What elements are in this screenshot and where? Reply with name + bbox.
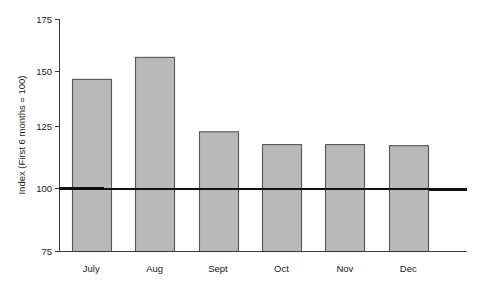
x-axis-category-labels: JulyAugSeptOctNovDec <box>83 263 417 274</box>
x-tick-label-nov: Nov <box>336 263 353 274</box>
y-tick-label-100: 100 <box>36 183 52 194</box>
x-tick-label-july: July <box>83 263 100 274</box>
bar-chart-figure: Index (First 6 months = 100) 175 150 125… <box>0 0 478 286</box>
x-tick-label-aug: Aug <box>146 263 163 274</box>
x-tick-label-sept: Sept <box>208 263 228 274</box>
y-axis-title: Index (First 6 months = 100) <box>16 75 27 194</box>
bar-july <box>73 79 112 251</box>
x-tick-label-oct: Oct <box>274 263 289 274</box>
y-tick-label-75: 75 <box>41 246 52 257</box>
y-axis-tick-labels: 175 150 125 100 75 <box>36 14 52 257</box>
y-tick-label-175: 175 <box>36 14 52 25</box>
y-tick-label-150: 150 <box>36 66 52 77</box>
reference-line-100 <box>59 189 467 190</box>
y-tick-label-125: 125 <box>36 121 52 132</box>
bar-dec <box>390 146 429 252</box>
x-tick-label-dec: Dec <box>400 263 417 274</box>
chart-canvas: Index (First 6 months = 100) 175 150 125… <box>0 0 478 286</box>
y-axis-tick-marks <box>55 20 60 252</box>
bar-aug <box>136 57 175 251</box>
bar-nov <box>326 145 365 252</box>
bar-oct <box>263 145 302 252</box>
bar-sept <box>200 132 239 252</box>
bars-group <box>73 57 429 251</box>
